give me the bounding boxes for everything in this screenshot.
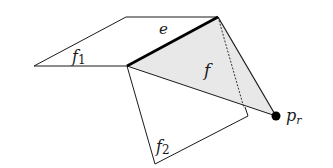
- label-point-pr: pr: [286, 106, 302, 127]
- label-face-f1: f1: [71, 47, 86, 67]
- label-face-f2: f2: [155, 137, 170, 157]
- mesh-diagram: e f1 f f2 pr: [0, 0, 333, 168]
- label-edge-e: e: [159, 20, 168, 38]
- point-pr: [272, 112, 281, 121]
- face-f-shaded: [127, 17, 276, 116]
